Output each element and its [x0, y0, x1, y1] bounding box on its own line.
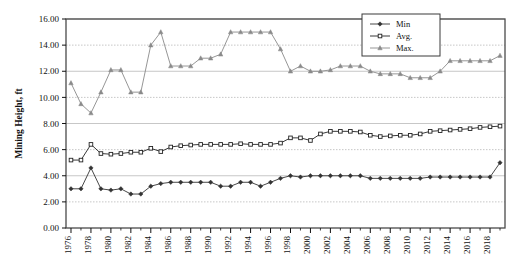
data-point-avg	[299, 136, 303, 140]
x-tick-label: 2004	[342, 236, 352, 255]
data-point-avg	[99, 152, 103, 156]
data-point-avg	[398, 133, 402, 137]
x-tick-label: 1986	[163, 236, 173, 255]
data-point-avg	[498, 124, 502, 128]
y-tick-label: 4.00	[43, 171, 59, 181]
data-point-avg	[159, 150, 163, 154]
x-tick-label: 2002	[322, 236, 332, 254]
x-tick-label: 1998	[282, 236, 292, 255]
y-tick-label: 6.00	[43, 145, 59, 155]
x-tick-label: 2010	[402, 236, 412, 255]
data-point-avg	[408, 133, 412, 137]
legend-box: MinAvg.Max.	[362, 14, 440, 56]
data-point-avg	[488, 125, 492, 129]
data-point-avg	[249, 143, 253, 147]
data-point-avg	[79, 158, 83, 162]
x-tick-label: 2014	[442, 236, 452, 255]
y-tick-label: 16.00	[39, 14, 60, 24]
data-point-avg	[209, 143, 213, 147]
mining-height-line-chart: 0.002.004.006.008.0010.0012.0014.0016.00…	[0, 0, 522, 266]
legend-label: Max.	[396, 43, 414, 53]
x-tick-label: 1996	[263, 236, 273, 255]
data-point-avg	[129, 150, 133, 154]
x-tick-label: 1978	[83, 236, 93, 255]
y-axis-title-text: Mining Height, ft	[14, 87, 24, 158]
x-tick-label: 2008	[382, 236, 392, 255]
y-tick-label: 8.00	[43, 119, 59, 129]
x-tick-label: 2000	[302, 236, 312, 255]
x-tick-label: 2018	[482, 236, 492, 255]
y-tick-label: 2.00	[43, 197, 59, 207]
y-tick-label: 12.00	[39, 66, 60, 76]
data-point-avg	[378, 34, 382, 38]
data-point-avg	[139, 150, 143, 154]
data-point-avg	[319, 132, 323, 136]
y-tick-label: 10.00	[39, 93, 60, 103]
data-point-avg	[468, 127, 472, 131]
x-tick-label: 1988	[183, 236, 193, 255]
data-point-avg	[279, 141, 283, 145]
data-point-avg	[369, 133, 373, 137]
data-point-avg	[289, 136, 293, 140]
x-tick-label: 1982	[123, 236, 133, 254]
data-point-avg	[119, 152, 123, 156]
x-tick-label: 2016	[462, 236, 472, 255]
data-point-avg	[359, 130, 363, 134]
data-point-avg	[458, 128, 462, 132]
legend-label: Min	[396, 19, 411, 29]
data-point-avg	[259, 143, 263, 147]
data-point-avg	[169, 145, 173, 149]
data-point-avg	[448, 128, 452, 132]
data-point-avg	[478, 126, 482, 130]
chart-background	[0, 0, 522, 266]
x-tick-label: 1994	[243, 235, 253, 254]
data-point-avg	[378, 135, 382, 139]
data-point-avg	[229, 143, 233, 147]
data-point-avg	[438, 129, 442, 133]
data-point-avg	[189, 143, 193, 147]
data-point-avg	[239, 142, 243, 146]
data-point-avg	[428, 130, 432, 134]
x-tick-label: 1984	[143, 236, 153, 255]
y-axis-title: Mining Height, ft	[14, 87, 24, 158]
data-point-avg	[309, 139, 313, 143]
chart-container: 0.002.004.006.008.0010.0012.0014.0016.00…	[0, 0, 522, 266]
data-point-avg	[219, 143, 223, 147]
x-tick-label: 1980	[103, 236, 113, 255]
x-tick-label: 1992	[223, 236, 233, 254]
data-point-avg	[199, 143, 203, 147]
x-tick-label: 1990	[203, 236, 213, 255]
legend-label: Avg.	[396, 31, 412, 41]
data-point-avg	[349, 130, 353, 134]
x-tick-label: 2006	[362, 236, 372, 255]
y-tick-label: 14.00	[39, 40, 60, 50]
data-point-avg	[269, 143, 273, 147]
x-tick-label: 2012	[422, 236, 432, 254]
data-point-avg	[339, 130, 343, 134]
data-point-avg	[109, 152, 113, 156]
x-tick-label: 1976	[63, 236, 73, 255]
data-point-avg	[89, 143, 93, 147]
data-point-avg	[149, 147, 153, 151]
data-point-avg	[69, 158, 73, 162]
data-point-avg	[418, 132, 422, 136]
y-tick-label: 0.00	[43, 223, 59, 233]
data-point-avg	[179, 144, 183, 148]
data-point-avg	[388, 134, 392, 138]
data-point-avg	[329, 130, 333, 134]
